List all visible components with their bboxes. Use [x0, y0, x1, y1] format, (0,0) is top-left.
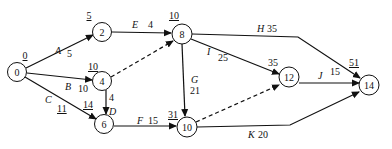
- activity-F-duration: 15: [148, 115, 158, 126]
- activity-A-name: A: [54, 45, 62, 56]
- activity-C-name: C: [45, 94, 52, 105]
- activity-I-duration: 25: [218, 52, 228, 63]
- node-2-label: 2: [100, 27, 105, 38]
- edge-B: [27, 73, 92, 80]
- earliest-time-6: 14: [83, 99, 93, 110]
- activity-A-duration: 5: [67, 48, 72, 59]
- activity-I-name: I: [206, 46, 211, 57]
- network-diagram: 0 2 4 6 8 10 12 14 0 5 10 14 10 31 35 51…: [0, 0, 392, 149]
- earliest-time-4: 10: [88, 61, 98, 72]
- node-14-label: 14: [364, 80, 374, 91]
- node-10-label: 10: [182, 122, 192, 133]
- activity-D-duration: 4: [109, 92, 114, 103]
- node-4-label: 4: [100, 76, 105, 87]
- activity-E-duration: 4: [148, 19, 153, 30]
- activity-J-name: J: [318, 70, 323, 81]
- activity-B-duration: 10: [78, 83, 88, 94]
- edge-I: [191, 39, 279, 74]
- node-12-label: 12: [284, 72, 294, 83]
- earliest-time-0: 0: [23, 50, 28, 61]
- edge-G: [182, 44, 185, 116]
- activity-C-duration: 11: [57, 103, 67, 114]
- activity-J-duration: 15: [330, 66, 340, 77]
- activity-D-name: D: [108, 106, 117, 117]
- activity-B-name: B: [65, 81, 71, 92]
- edge-K: [197, 92, 359, 127]
- earliest-time-12: 35: [268, 57, 278, 68]
- earliest-time-14: 51: [349, 57, 359, 68]
- activity-G-name: G: [191, 74, 198, 85]
- activity-H-duration: 35: [267, 23, 277, 34]
- activity-E-name: E: [131, 19, 138, 30]
- edge-E: [112, 32, 171, 33]
- earliest-time-8: 10: [169, 10, 179, 21]
- edge-dummy-4-8: [111, 41, 173, 77]
- activity-H-name: H: [256, 23, 265, 34]
- node-8-label: 8: [180, 29, 185, 40]
- earliest-time-10: 31: [168, 109, 178, 120]
- activity-G-duration: 21: [190, 85, 200, 96]
- node-0-label: 0: [15, 67, 20, 78]
- earliest-time-2: 5: [87, 10, 92, 21]
- activity-K-name: K: [247, 129, 256, 140]
- activity-F-name: F: [136, 115, 144, 126]
- node-6-label: 6: [102, 119, 107, 130]
- activity-K-duration: 20: [258, 129, 268, 140]
- edge-dummy-10-12: [196, 85, 279, 122]
